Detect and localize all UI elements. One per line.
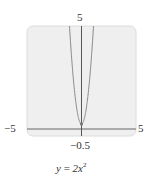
graphing-window	[0, 0, 155, 180]
vertex-point	[80, 122, 83, 125]
x-min-label: −5	[4, 123, 16, 134]
equation-caption: y = 2x2	[56, 161, 87, 174]
caption-exponent: 2	[83, 161, 87, 169]
caption-equals: =	[61, 162, 73, 174]
x-max-label: 5	[138, 123, 144, 134]
caption-term: 2x	[73, 162, 83, 174]
y-min-label: −0.5	[70, 140, 90, 151]
y-max-label: 5	[77, 12, 83, 23]
